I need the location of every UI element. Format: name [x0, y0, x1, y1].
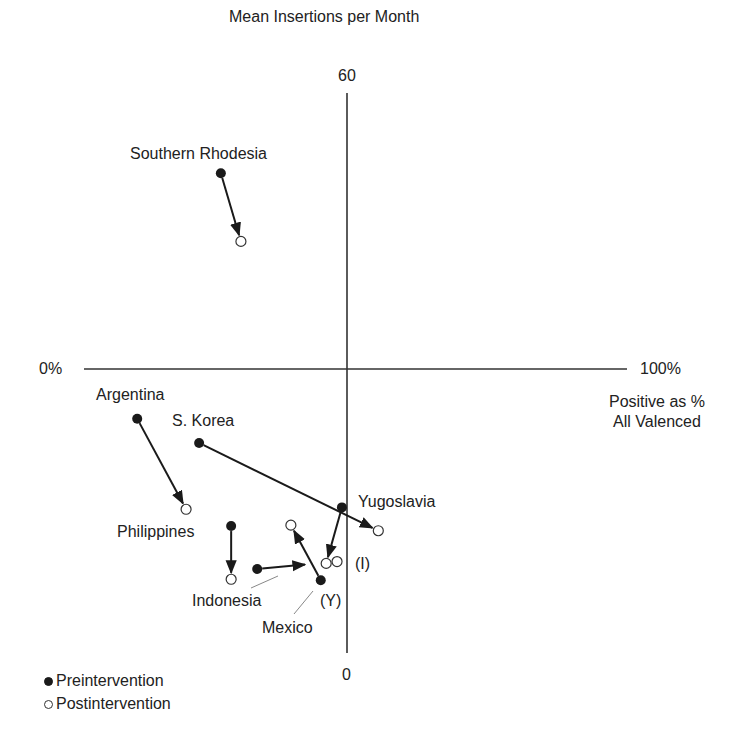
arrow-argentina	[140, 423, 183, 503]
x-axis-title-line2: All Valenced	[592, 413, 722, 431]
post-point-mexico	[286, 520, 296, 530]
y-axis-min-tick: 0	[342, 666, 351, 684]
post-point-yugoslavia	[321, 558, 331, 568]
label-indonesia: Indonesia	[192, 592, 261, 610]
series-southern-rhodesia	[216, 168, 246, 246]
legend-pre-label: Preintervention	[56, 672, 164, 690]
open-circle-icon	[44, 700, 53, 709]
label-mexico: Mexico	[262, 619, 313, 637]
arrow-indonesia	[262, 565, 305, 569]
pre-point-mexico	[316, 575, 326, 585]
mexico-leader-line	[294, 591, 313, 614]
post-point-indonesia	[332, 557, 342, 567]
series-mexico	[286, 520, 326, 585]
annotation-indonesia: (I)	[355, 555, 370, 573]
filled-circle-icon	[44, 677, 53, 686]
pre-point-philippines	[226, 521, 236, 531]
post-point-argentina	[181, 504, 191, 514]
pre-point-argentina	[132, 414, 142, 424]
pre-point-s-korea	[194, 438, 204, 448]
y-axis-max-tick: 60	[338, 67, 356, 85]
label-argentina: Argentina	[96, 386, 165, 404]
pre-point-yugoslavia	[337, 502, 347, 512]
x-axis-title: Positive as % All Valenced	[592, 393, 722, 431]
post-point-philippines	[226, 574, 236, 584]
arrow-yugoslavia	[328, 512, 341, 557]
pre-point-southern-rhodesia	[216, 168, 226, 178]
legend-item-post: Postintervention	[44, 695, 171, 713]
post-point-southern-rhodesia	[236, 236, 246, 246]
label-yugoslavia: Yugoslavia	[358, 493, 435, 511]
x-axis-min-tick: 0%	[39, 360, 62, 378]
x-axis-max-tick: 100%	[640, 360, 681, 378]
indonesia-leader-line	[251, 576, 278, 588]
label-s-korea: S. Korea	[172, 412, 234, 430]
legend-post-label: Postintervention	[56, 695, 171, 713]
label-philippines: Philippines	[117, 523, 194, 541]
x-axis-title-line1: Positive as %	[592, 393, 722, 411]
label-southern-rhodesia: Southern Rhodesia	[130, 145, 267, 163]
annotation-yugoslavia: (Y)	[320, 592, 341, 610]
arrow-mexico	[294, 531, 318, 576]
series-philippines	[226, 521, 236, 584]
legend-item-pre: Preintervention	[44, 672, 164, 690]
arrow-southern-rhodesia	[222, 178, 239, 235]
y-axis-title: Mean Insertions per Month	[229, 8, 419, 26]
post-point-s-korea	[373, 526, 383, 536]
pre-point-indonesia	[252, 564, 262, 574]
